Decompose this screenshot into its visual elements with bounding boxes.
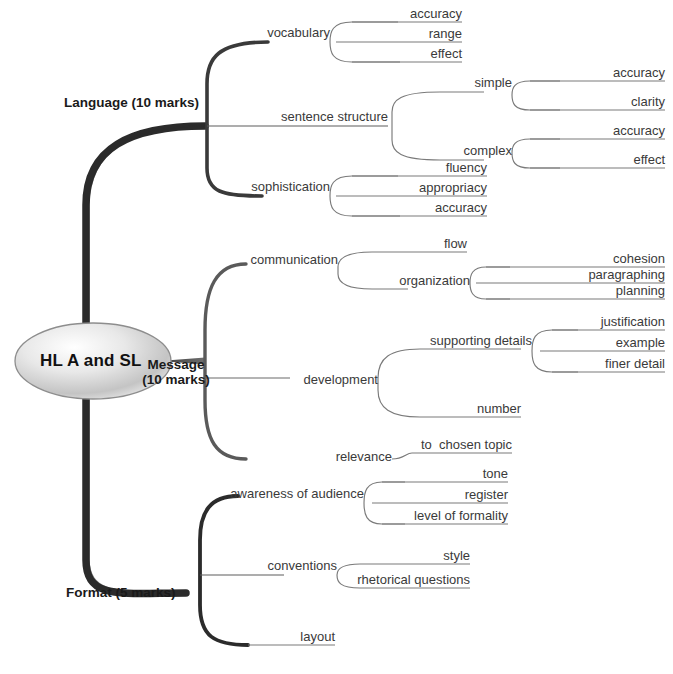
leaf-development-number[interactable]: number [477,402,521,416]
node-conventions[interactable]: conventions [268,559,337,573]
leaf-awareness-level-of-formality[interactable]: level of formality [414,509,508,523]
leaf-relevance-to-chosen-topic[interactable]: to chosen topic [421,438,512,452]
mind-map-canvas: HL A and SL Language (10 marks) Message … [0,0,673,674]
node-complex[interactable]: complex [464,144,512,158]
leaf-awareness-tone[interactable]: tone [483,467,508,481]
leaf-supporting-example[interactable]: example [616,336,665,350]
leaf-sophistication-fluency[interactable]: fluency [446,161,487,175]
leaf-sophistication-appropriacy[interactable]: appropriacy [419,181,487,195]
node-relevance[interactable]: relevance [336,450,392,464]
node-vocabulary[interactable]: vocabulary [267,26,330,40]
root-node-label: HL A and SL [40,351,142,371]
leaf-conventions-style[interactable]: style [443,549,470,563]
leaf-vocabulary-accuracy[interactable]: accuracy [410,7,462,21]
node-sentence-structure[interactable]: sentence structure [281,110,388,124]
leaf-communication-flow[interactable]: flow [444,237,467,251]
format-branch-spine [200,496,248,645]
node-communication[interactable]: communication [251,253,338,267]
node-awareness-of-audience[interactable]: awareness of audience [230,487,364,501]
node-supporting-details[interactable]: supporting details [430,334,532,348]
node-sophistication[interactable]: sophistication [251,180,330,194]
leaf-sophistication-accuracy[interactable]: accuracy [435,201,487,215]
node-development[interactable]: development [304,373,378,387]
leaf-organization-planning[interactable]: planning [616,284,665,298]
leaf-supporting-justification[interactable]: justification [601,315,665,329]
branch-label-format[interactable]: Format (5 marks) [66,585,176,600]
leaf-simple-accuracy[interactable]: accuracy [613,66,665,80]
leaf-organization-paragraphing[interactable]: paragraphing [588,268,665,282]
relevance-subtree [392,453,512,459]
leaf-conventions-rhetorical-questions[interactable]: rhetorical questions [357,573,470,587]
leaf-simple-clarity[interactable]: clarity [631,95,665,109]
leaf-vocabulary-range[interactable]: range [429,27,462,41]
leaf-format-layout[interactable]: layout [300,630,335,644]
branch-label-language[interactable]: Language (10 marks) [64,95,199,110]
leaf-vocabulary-effect[interactable]: effect [430,47,462,61]
leaf-complex-accuracy[interactable]: accuracy [613,124,665,138]
branch-label-message[interactable]: Message (10 marks) [131,357,221,387]
language-branch-spine [207,42,268,196]
leaf-awareness-register[interactable]: register [465,488,508,502]
leaf-complex-effect[interactable]: effect [633,153,665,167]
node-simple[interactable]: simple [474,76,512,90]
leaf-organization-cohesion[interactable]: cohesion [613,252,665,266]
node-organization[interactable]: organization [399,274,470,288]
leaf-supporting-finer-detail[interactable]: finer detail [605,357,665,371]
